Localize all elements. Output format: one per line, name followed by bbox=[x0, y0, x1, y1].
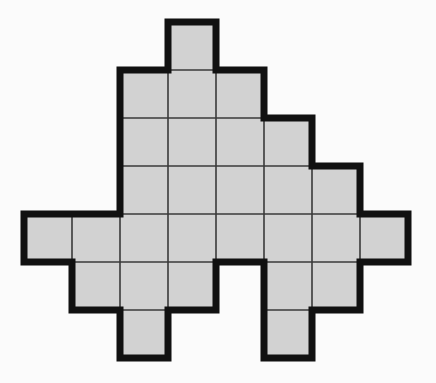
figure-canvas bbox=[0, 0, 436, 383]
grid-cell bbox=[120, 310, 168, 358]
grid-cell bbox=[168, 214, 216, 262]
polyomino-grid-svg bbox=[0, 0, 436, 383]
grid-cell bbox=[264, 166, 312, 214]
grid-cell bbox=[120, 262, 168, 310]
grid-cell bbox=[216, 214, 264, 262]
grid-cell bbox=[216, 118, 264, 166]
grid-cell bbox=[312, 166, 360, 214]
grid-cell bbox=[72, 262, 120, 310]
grid-cell bbox=[120, 118, 168, 166]
grid-cell bbox=[312, 262, 360, 310]
grid-cell bbox=[168, 166, 216, 214]
grid-cell bbox=[264, 262, 312, 310]
grid-cell bbox=[168, 118, 216, 166]
grid-cell bbox=[168, 22, 216, 70]
grid-cell bbox=[120, 70, 168, 118]
grid-cell bbox=[264, 310, 312, 358]
grid-cell bbox=[216, 70, 264, 118]
grid-cell bbox=[216, 166, 264, 214]
grid-cell bbox=[168, 262, 216, 310]
grid-cell bbox=[120, 166, 168, 214]
grid-cell bbox=[264, 214, 312, 262]
grid-cell bbox=[264, 118, 312, 166]
grid-cell bbox=[312, 214, 360, 262]
grid-cell bbox=[24, 214, 72, 262]
grid-cell bbox=[120, 214, 168, 262]
grid-cell bbox=[168, 70, 216, 118]
grid-cell bbox=[72, 214, 120, 262]
grid-cell bbox=[360, 214, 408, 262]
